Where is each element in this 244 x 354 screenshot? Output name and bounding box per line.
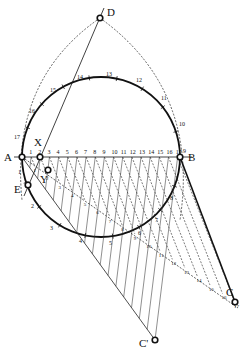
point-c-label: C — [226, 286, 233, 298]
line-bc — [180, 157, 235, 302]
diagonal-division-label: 15 — [209, 287, 215, 292]
dashed-parallel — [123, 157, 160, 251]
ab-division-label: 11 — [121, 149, 127, 155]
circle-division-label: 1 — [18, 169, 21, 175]
ab-division-label: 12 — [130, 149, 136, 155]
point-e-label: E — [14, 183, 21, 195]
ab-division-label: 13 — [139, 149, 145, 155]
ab-division-label: 10 — [112, 149, 118, 155]
circle-division-label: 13 — [106, 71, 112, 77]
diagonal-division-label: 17 — [234, 304, 240, 309]
point-a-label: A — [4, 151, 12, 163]
circle-division-label: 4 — [79, 238, 82, 244]
circle-tick — [116, 76, 117, 81]
diagonal-division-label: 4 — [71, 193, 74, 198]
ab-division-label: 15 — [157, 149, 163, 155]
diagonal-division-label: 5 — [84, 202, 87, 207]
circle-tick — [85, 233, 86, 238]
line-ac-dashed — [22, 157, 238, 308]
point-cprime-label: C' — [139, 337, 148, 349]
solid-parallel — [139, 157, 159, 318]
diagonal-division-label: 12 — [171, 261, 177, 266]
dashed-parallel — [132, 157, 172, 259]
circle-division-label: 15 — [50, 87, 56, 93]
ab-division-label: 5 — [66, 149, 69, 155]
circle-division-label: 17 — [14, 134, 20, 140]
ab-division-label: 7 — [84, 149, 87, 155]
point-a-marker — [19, 154, 25, 160]
point-y-marker — [45, 167, 51, 173]
diagonal-division-label: 11 — [159, 253, 164, 258]
ab-division-label: 16 — [166, 149, 172, 155]
point-y-label: Y — [40, 173, 48, 185]
point-d-marker — [97, 15, 103, 21]
dashed-parallel — [159, 157, 210, 285]
circle-division-label: 6 — [138, 230, 141, 236]
point-d-label: D — [107, 6, 115, 18]
point-x-label: X — [34, 136, 42, 148]
solid-parallel — [85, 157, 96, 243]
solid-parallel — [108, 157, 123, 275]
ab-division-label: 6 — [75, 149, 78, 155]
circle-division-label: 9 — [183, 148, 186, 154]
diagonal-division-label: 9 — [134, 236, 137, 241]
circle-division-label: 11 — [161, 95, 167, 101]
diagonal-division-label: 10 — [146, 244, 152, 249]
geometry-diagram: 1122334455667788991010111112121313141415… — [0, 0, 244, 354]
point-b-marker — [177, 154, 183, 160]
point-x-marker — [37, 154, 43, 160]
point-cprime-marker — [152, 337, 158, 343]
solid-parallel — [155, 157, 178, 340]
ab-division-label: 4 — [57, 149, 60, 155]
circle-division-label: 8 — [170, 195, 173, 201]
circle-division-label: 10 — [179, 121, 185, 127]
solid-parallel — [116, 157, 132, 286]
solid-parallel — [147, 157, 168, 329]
point-b-label: B — [188, 151, 195, 163]
circle-division-label: 7 — [155, 217, 158, 223]
solid-parallel — [92, 157, 104, 254]
circle-division-label: 5 — [109, 240, 112, 246]
diagonal-division-label: 14 — [196, 278, 202, 283]
circle-division-label: 12 — [136, 77, 142, 83]
solid-parallel — [53, 157, 58, 200]
diagonal-division-label: 6 — [96, 210, 99, 215]
diagonal-division-label: 3 — [59, 185, 62, 190]
ab-division-label: 1 — [29, 149, 32, 155]
circle-division-label: 3 — [50, 225, 53, 231]
ab-division-label: 3 — [47, 149, 50, 155]
circle-division-label: 2 — [31, 203, 34, 209]
diagonal-division-label: 13 — [184, 270, 190, 275]
circle-division-label: 16 — [29, 108, 35, 114]
solid-parallel — [69, 157, 77, 222]
ab-division-label: 8 — [93, 149, 96, 155]
ab-division-label: 17 — [176, 149, 182, 155]
ab-division-label: 9 — [102, 149, 105, 155]
solid-parallel — [30, 157, 31, 168]
ab-division-label: 14 — [148, 149, 154, 155]
ab-division-label: 2 — [38, 149, 41, 155]
construction-figure: 1122334455667788991010111112121313141415… — [0, 0, 244, 354]
dashed-parallel — [31, 157, 34, 166]
point-e-marker — [25, 182, 31, 188]
circle-tick — [89, 75, 90, 80]
circle-division-label: 14 — [77, 74, 83, 80]
dashed-parallel — [168, 157, 222, 293]
